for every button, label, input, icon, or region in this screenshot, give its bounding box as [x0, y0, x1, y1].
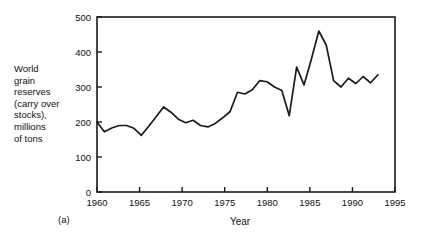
y-tick-label: 500 — [75, 12, 91, 23]
x-tick-label: 1975 — [214, 197, 235, 208]
subfigure-label: (a) — [58, 214, 70, 225]
y-tick-label: 400 — [75, 47, 91, 58]
x-tick-label: 1970 — [172, 197, 193, 208]
plot-frame — [97, 17, 395, 192]
y-axis-label: World grain reserves (carry over stocks)… — [14, 63, 88, 144]
x-tick-label: 1960 — [86, 197, 107, 208]
y-tick-label: 100 — [75, 152, 91, 163]
x-axis-title-text: Year — [230, 216, 250, 227]
x-tick-label: 1995 — [384, 197, 405, 208]
x-tick-label: 1990 — [342, 197, 363, 208]
x-tick-label: 1985 — [299, 197, 320, 208]
x-tick-label: 1980 — [257, 197, 278, 208]
y-tick-label: 0 — [86, 187, 91, 198]
figure-panel-a: 0100200300400500 19601965197019751980198… — [0, 0, 430, 241]
x-tick-label: 1965 — [129, 197, 150, 208]
x-axis-tick-labels: 19601965197019751980198519901995 — [86, 197, 405, 208]
